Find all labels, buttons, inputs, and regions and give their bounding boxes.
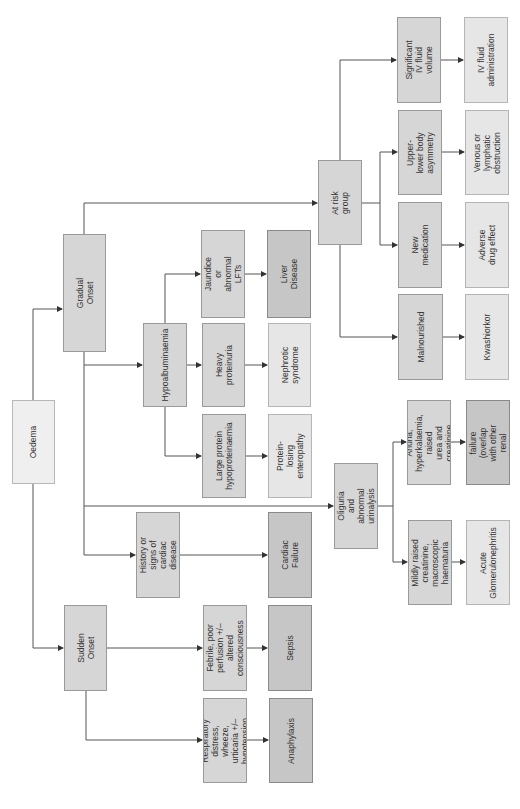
node-label: Protein-losing enteropathy: [275, 434, 305, 479]
node-label: Respiratory distress, wheeze, urticaria …: [203, 718, 247, 764]
node-label: Mildly raised creatinine, macroscopic ha…: [410, 539, 450, 587]
node-malnourished: Malnourished: [398, 294, 443, 380]
node-new-medication: New medication: [398, 202, 442, 288]
node-label: Cardiac Failure: [280, 534, 300, 576]
node-label: Hypoalbuminaemia: [160, 329, 170, 402]
node-iv-fluid-admin: IV fluid administration: [464, 17, 508, 103]
node-label: Upper-lower body asymmetry: [405, 132, 435, 174]
node-kwashiorkor: Kwashiorkor: [465, 294, 509, 380]
node-sepsis: Sepsis: [268, 605, 312, 691]
node-significant-iv: Significant IV fluid volume: [397, 17, 441, 103]
node-label: Gradual Onset: [75, 273, 95, 314]
node-adverse-drug: Adverse drug effect: [465, 202, 509, 288]
node-label: History or signs of cardiac disease: [138, 534, 178, 576]
node-protein-losing: Protein-losing enteropathy: [268, 414, 312, 498]
node-jaundice: Jaundice or abnormal LFTs: [201, 230, 245, 318]
node-label: Venous or lymphatic obstruction: [472, 132, 502, 174]
node-label: Liver Disease: [279, 253, 299, 295]
node-label: At risk group: [330, 182, 350, 224]
node-anuria: Anuria, hyperkalaemia, raised urea and c…: [407, 400, 451, 485]
node-hypoalbuminaemia: Hypoalbuminaemia: [143, 323, 187, 407]
node-label: Renal failure (overlap with other renal …: [466, 422, 510, 464]
node-liver-disease: Liver Disease: [267, 230, 311, 318]
node-febrile: Febrile, poor perfusion +/– altered cons…: [203, 605, 247, 691]
node-label: Kwashiorkor: [482, 314, 492, 361]
node-gradual-onset: Gradual Onset: [63, 234, 106, 352]
node-respiratory: Respiratory distress, wheeze, urticaria …: [203, 698, 247, 783]
node-cardiac-history: History or signs of cardiac disease: [136, 512, 180, 598]
node-label: Heavy proteinuria: [214, 345, 234, 386]
node-heavy-proteinuria: Heavy proteinuria: [202, 323, 245, 407]
node-sudden-onset: Sudden Onset: [64, 605, 107, 691]
node-label: Jaundice or abnormal LFTs: [203, 253, 243, 295]
node-label: Sepsis: [285, 635, 295, 661]
node-cardiac-failure: Cardiac Failure: [268, 512, 312, 598]
node-label: Adverse drug effect: [477, 224, 497, 266]
node-label: Anaphylaxis: [286, 718, 296, 764]
node-label: Significant IV fluid volume: [404, 39, 434, 81]
node-label: Acute Glomerulonephritis: [478, 527, 498, 598]
node-at-risk-group: At risk group: [318, 160, 362, 245]
node-label: Large protein hypoproteinaemia: [214, 422, 234, 490]
node-label: Oedema: [28, 426, 38, 459]
node-label: Sudden Onset: [76, 628, 96, 669]
node-label: IV fluid administration: [476, 34, 496, 87]
node-renal-failure: Renal failure (overlap with other renal …: [466, 400, 510, 485]
node-mildly-raised: Mildly raised creatinine, macroscopic ha…: [408, 520, 452, 605]
node-large-protein: Large protein hypoproteinaemia: [202, 414, 246, 498]
node-acute-gn: Acute Glomerulonephritis: [466, 520, 510, 605]
node-venous-lymphatic: Venous or lymphatic obstruction: [465, 110, 509, 195]
node-oedema: Oedema: [12, 400, 55, 484]
node-nephrotic-syndrome: Nephrotic syndrome: [268, 323, 311, 407]
node-label: Febrile, poor perfusion +/– altered cons…: [205, 620, 245, 676]
node-label: New medication: [410, 224, 430, 266]
node-anaphylaxis: Anaphylaxis: [269, 698, 313, 783]
node-label: Anuria, hyperkalaemia, raised urea and c…: [407, 414, 451, 472]
node-label: Malnourished: [416, 311, 426, 362]
oedema-flowchart: Oedema Gradual Onset Sudden Onset Hypoal…: [0, 0, 520, 809]
node-oliguria: Oliguria and abnormal urinalysis: [334, 463, 378, 549]
node-upper-lower: Upper-lower body asymmetry: [398, 110, 442, 195]
node-label: Oliguria and abnormal urinalysis: [336, 485, 376, 527]
node-label: Nephrotic syndrome: [280, 345, 300, 386]
